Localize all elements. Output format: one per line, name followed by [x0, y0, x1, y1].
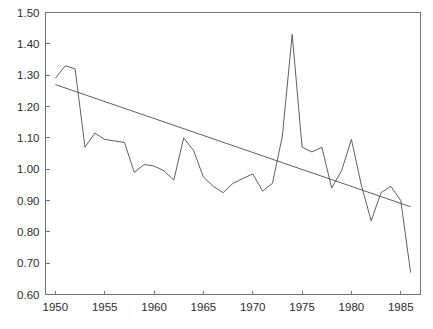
- y-tick-label: 1.40: [17, 38, 39, 50]
- plot-frame: [46, 13, 421, 295]
- data-series-group: [55, 34, 410, 272]
- x-tick-label: 1980: [339, 301, 365, 313]
- y-tick-label: 1.30: [17, 69, 39, 81]
- x-tick-label: 1985: [388, 301, 414, 313]
- series-line-trend: [55, 85, 410, 207]
- axes-group: [46, 13, 421, 295]
- y-tick-label: 0.70: [17, 257, 39, 269]
- x-tick-label: 1955: [92, 301, 118, 313]
- y-tick-label: 0.80: [17, 226, 39, 238]
- y-axis-ticks: 0.600.700.800.901.001.101.201.301.401.50: [17, 7, 49, 301]
- y-tick-label: 1.20: [17, 101, 39, 113]
- y-tick-label: 1.10: [17, 132, 39, 144]
- x-tick-label: 1970: [240, 301, 266, 313]
- x-tick-label: 1965: [191, 301, 217, 313]
- series-line-observed: [55, 34, 410, 272]
- y-tick-label: 0.90: [17, 195, 39, 207]
- y-tick-label: 0.60: [17, 289, 39, 301]
- y-tick-label: 1.50: [17, 7, 39, 19]
- y-tick-label: 1.00: [17, 163, 39, 175]
- x-tick-label: 1950: [43, 301, 69, 313]
- x-axis-ticks: 19501955196019651970197519801985: [43, 291, 414, 313]
- x-tick-label: 1975: [289, 301, 315, 313]
- chart-container: 0.600.700.800.901.001.101.201.301.401.50…: [0, 0, 433, 329]
- line-chart-plot: 0.600.700.800.901.001.101.201.301.401.50…: [0, 0, 433, 329]
- x-tick-label: 1960: [141, 301, 167, 313]
